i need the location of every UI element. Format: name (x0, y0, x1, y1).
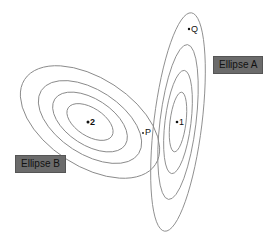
ellipse-b-label: Ellipse B (15, 155, 66, 173)
ellipse-a-label: Ellipse A (213, 56, 263, 74)
center-1-dot (176, 121, 179, 124)
center-1-label: 1 (179, 117, 184, 127)
point-q-dot (188, 28, 190, 30)
center-2-label: 2 (90, 117, 95, 127)
ellipse-diagram (0, 0, 274, 239)
point-q-label: Q (191, 24, 198, 34)
point-p-label: P (145, 127, 151, 137)
point-p-dot (142, 132, 144, 134)
